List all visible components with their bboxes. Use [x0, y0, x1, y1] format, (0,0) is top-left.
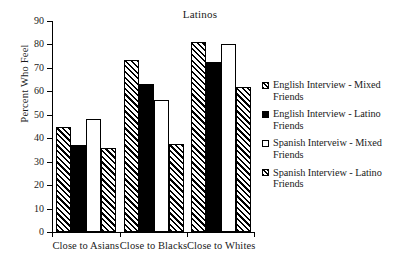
bar — [56, 127, 71, 233]
legend-item: English Interview - Latino Friends — [262, 108, 410, 131]
legend-swatch-icon — [262, 140, 269, 147]
bar — [206, 62, 221, 232]
bar — [101, 148, 116, 232]
bar — [191, 42, 206, 232]
y-axis-line — [52, 21, 53, 233]
bar — [124, 60, 139, 232]
y-tick: 90 — [47, 21, 52, 22]
y-tick-label: 40 — [34, 131, 44, 144]
y-tick-label: 0 — [39, 225, 44, 238]
bar — [86, 119, 101, 232]
y-axis-label: Percent Who Feel — [19, 14, 30, 154]
y-tick-label: 80 — [34, 37, 44, 50]
legend-item-label: English Interview - Mixed Friends — [273, 79, 381, 102]
y-tick: 80 — [47, 44, 52, 45]
x-tick — [254, 232, 255, 237]
y-tick-label: 30 — [34, 155, 44, 168]
legend-swatch-icon — [262, 169, 269, 176]
chart-legend: English Interview - Mixed FriendsEnglish… — [262, 79, 410, 196]
y-tick-label: 10 — [34, 202, 44, 215]
y-tick: 20 — [47, 185, 52, 186]
legend-item: Spanish Interview - Latino Friends — [262, 167, 410, 190]
y-tick: 30 — [47, 162, 52, 163]
bar — [154, 100, 169, 232]
bar — [169, 144, 184, 232]
legend-swatch-icon — [262, 111, 269, 118]
legend-item: English Interview - Mixed Friends — [262, 79, 410, 102]
y-tick: 50 — [47, 115, 52, 116]
legend-item-label: Spanish Interview - Latino Friends — [273, 167, 382, 190]
y-tick: 40 — [47, 138, 52, 139]
y-tick-label: 60 — [34, 84, 44, 97]
bar — [236, 87, 251, 232]
y-tick: 10 — [47, 209, 52, 210]
legend-item-label: English Interview - Latino Friends — [273, 108, 381, 131]
bar-chart-figure: Latinos Percent Who Feel 908070605040302… — [0, 0, 411, 274]
bar — [221, 44, 236, 232]
plot-area: 9080706050403020100 — [52, 21, 255, 232]
chart-title: Latinos — [120, 8, 280, 20]
y-tick: 70 — [47, 68, 52, 69]
bar — [139, 84, 154, 232]
y-tick-label: 90 — [34, 14, 44, 27]
legend-item: Spanish Interveiw - Mixed Friends — [262, 137, 410, 160]
legend-swatch-icon — [262, 82, 269, 89]
bar — [71, 145, 86, 232]
x-tick — [120, 232, 121, 237]
x-axis-line — [52, 232, 255, 233]
x-tick — [52, 232, 53, 237]
x-category-label: Close to Whites — [173, 240, 269, 251]
y-tick-label: 70 — [34, 61, 44, 74]
legend-item-label: Spanish Interveiw - Mixed Friends — [273, 137, 382, 160]
y-tick: 60 — [47, 91, 52, 92]
x-tick — [187, 232, 188, 237]
y-tick-label: 20 — [34, 178, 44, 191]
y-tick-label: 50 — [34, 108, 44, 121]
